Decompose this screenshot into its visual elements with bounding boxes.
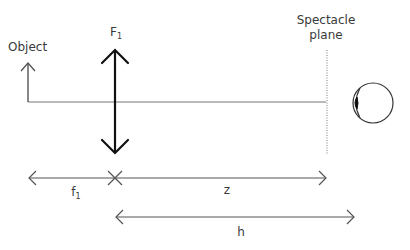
eye-icon — [353, 83, 393, 123]
lens-subscript: 1 — [117, 32, 122, 41]
object-arrow-icon — [21, 63, 35, 102]
spectacle-plane-line1: Spectacle — [297, 13, 356, 28]
h-dimension-line — [116, 210, 354, 224]
f1-z-dimension-line — [29, 171, 326, 185]
spectacle-plane-line2: plane — [297, 28, 356, 43]
focal-length-label: f1 — [71, 186, 80, 199]
object-label: Object — [8, 41, 47, 54]
z-distance-label: z — [224, 184, 230, 197]
h-distance-label: h — [237, 226, 245, 239]
spectacle-plane-label: Spectacle plane — [297, 13, 356, 43]
lens-f-text: F — [110, 25, 117, 39]
lens-f1-label: F1 — [110, 26, 122, 39]
focal-subscript: 1 — [76, 192, 81, 201]
